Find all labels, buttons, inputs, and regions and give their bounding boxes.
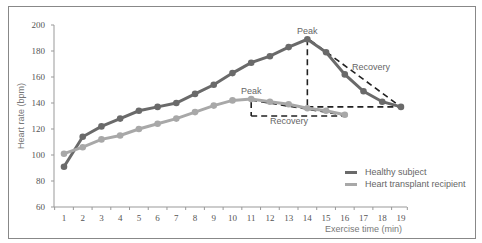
data-point: [79, 144, 86, 151]
data-point: [61, 163, 68, 170]
data-point: [98, 136, 105, 143]
y-tick-label: 60: [36, 202, 46, 212]
y-tick-label: 160: [32, 72, 46, 82]
data-point: [229, 70, 236, 77]
data-point: [98, 123, 105, 130]
data-point: [248, 59, 255, 66]
data-point: [285, 44, 292, 51]
x-tick-label: 2: [80, 213, 85, 223]
data-point: [192, 109, 199, 116]
data-point: [117, 115, 124, 122]
x-tick-label: 6: [155, 213, 160, 223]
data-point: [210, 102, 217, 109]
y-axis-title: Heart rate (bpm): [16, 83, 26, 149]
x-tick-label: 14: [303, 213, 313, 223]
x-tick-label: 13: [284, 213, 294, 223]
x-tick-label: 18: [378, 213, 388, 223]
series-line-transplant: [64, 99, 345, 154]
y-tick-label: 120: [32, 124, 46, 134]
legend-item-healthy: Healthy subject: [345, 166, 466, 178]
peak-label-healthy: Peak: [297, 26, 318, 36]
y-tick-label: 80: [36, 176, 46, 186]
x-tick-label: 5: [137, 213, 142, 223]
legend-swatch-transplant: [345, 183, 357, 186]
data-point: [154, 121, 161, 128]
y-tick-label: 100: [32, 150, 46, 160]
line-chart: 6080100120140160180200123456789101112131…: [0, 0, 482, 243]
y-tick-label: 200: [32, 20, 46, 30]
data-point: [173, 115, 180, 122]
data-point: [61, 150, 68, 157]
x-tick-label: 17: [359, 213, 369, 223]
x-axis-title: Exercise time (min): [325, 224, 402, 234]
data-point: [267, 98, 274, 105]
data-point: [360, 88, 367, 95]
data-point: [304, 105, 311, 112]
data-point: [323, 49, 330, 56]
x-tick-label: 1: [62, 213, 67, 223]
data-point: [342, 71, 349, 78]
data-point: [342, 111, 349, 118]
data-point: [192, 91, 199, 98]
legend-swatch-healthy: [345, 171, 357, 174]
data-point: [398, 104, 405, 111]
x-tick-label: 15: [322, 213, 332, 223]
x-tick-label: 12: [265, 213, 274, 223]
data-point: [285, 101, 292, 108]
data-point: [136, 108, 143, 115]
y-tick-label: 140: [32, 98, 46, 108]
x-tick-label: 3: [99, 213, 104, 223]
data-point: [323, 108, 330, 115]
data-point: [117, 132, 124, 139]
data-point: [136, 126, 143, 133]
x-tick-label: 19: [396, 213, 406, 223]
data-point: [210, 82, 217, 89]
x-tick-label: 16: [340, 213, 350, 223]
y-tick-label: 180: [32, 46, 46, 56]
x-tick-label: 10: [228, 213, 238, 223]
data-point: [304, 36, 311, 43]
data-point: [173, 100, 180, 107]
x-tick-label: 9: [212, 213, 217, 223]
x-tick-label: 8: [193, 213, 198, 223]
data-point: [248, 96, 255, 103]
data-point: [379, 98, 386, 105]
data-point: [79, 134, 86, 141]
legend-item-transplant: Heart transplant recipient: [345, 178, 466, 190]
recovery-label-transplant: Recovery: [270, 116, 309, 126]
legend-label-transplant: Heart transplant recipient: [365, 179, 466, 189]
recovery-label-healthy: Recovery: [352, 62, 391, 72]
x-tick-label: 7: [174, 213, 179, 223]
data-point: [229, 97, 236, 104]
data-point: [154, 104, 161, 111]
x-tick-label: 11: [247, 213, 256, 223]
legend: Healthy subject Heart transplant recipie…: [345, 166, 466, 190]
x-tick-label: 4: [118, 213, 123, 223]
peak-label-transplant: Peak: [241, 86, 262, 96]
data-point: [267, 53, 274, 60]
legend-label-healthy: Healthy subject: [365, 167, 427, 177]
